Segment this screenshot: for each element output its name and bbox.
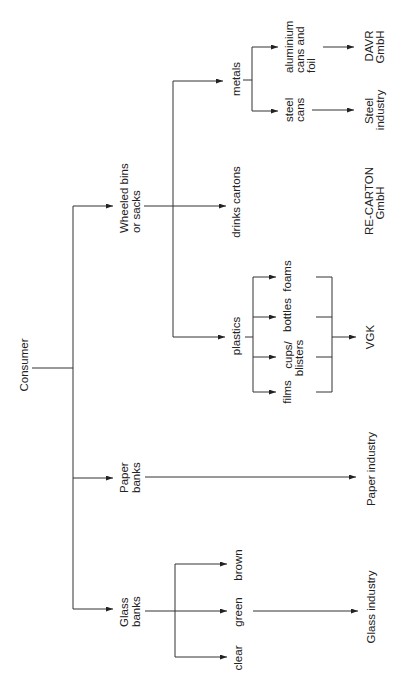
steel-industry-line2: industry xyxy=(374,90,386,131)
glass-banks-line2: banks xyxy=(130,596,142,627)
recarton-line2: GmbH xyxy=(374,186,386,219)
drinks-cartons-label: drinks cartons xyxy=(230,166,242,238)
bottles-label: bottles xyxy=(281,298,293,332)
davr-line2: GmbH xyxy=(374,30,386,63)
recycling-flow-diagram: Consumer Wheeled bins or sacks Paper ban… xyxy=(0,0,404,691)
paper-banks-line1: Paper xyxy=(118,462,130,493)
cups-blisters-label: cups/ blisters xyxy=(282,340,305,377)
wheeled-bins-line1: Wheeled bins xyxy=(118,163,130,233)
paper-banks-label: Paper banks xyxy=(118,462,142,493)
steel-cans-line2: cans xyxy=(294,97,306,122)
paper-industry-label: Paper industry xyxy=(365,432,377,506)
glass-banks-line1: Glass xyxy=(118,597,130,627)
cups-blisters-line2: blisters xyxy=(293,340,305,377)
recarton-label: RE-CARTON GmbH xyxy=(363,167,386,235)
aluminium-line3: foil xyxy=(305,58,317,73)
clear-label: clear xyxy=(232,645,244,670)
foams-label: foams xyxy=(281,260,293,292)
brown-label: brown xyxy=(232,549,244,580)
glass-banks-label: Glass banks xyxy=(118,596,142,627)
vgk-label: VGK xyxy=(364,325,376,350)
green-label: green xyxy=(232,597,244,626)
paper-banks-line2: banks xyxy=(130,462,142,493)
wheeled-bins-line2: or sacks xyxy=(130,190,142,233)
aluminium-cans-label: aluminium cans and foil xyxy=(283,21,317,73)
wheeled-bins-label: Wheeled bins or sacks xyxy=(118,163,142,233)
steel-cans-label: steel cans xyxy=(283,97,306,122)
davr-label: DAVR GmbH xyxy=(363,30,386,63)
connectors xyxy=(32,47,358,657)
plastics-label: plastics xyxy=(230,317,242,356)
glass-industry-label: Glass industry xyxy=(365,570,377,643)
steel-industry-label: Steel industry xyxy=(363,90,386,131)
consumer-label: Consumer xyxy=(18,338,30,391)
metals-label: metals xyxy=(230,62,242,96)
films-label: films xyxy=(281,380,293,404)
